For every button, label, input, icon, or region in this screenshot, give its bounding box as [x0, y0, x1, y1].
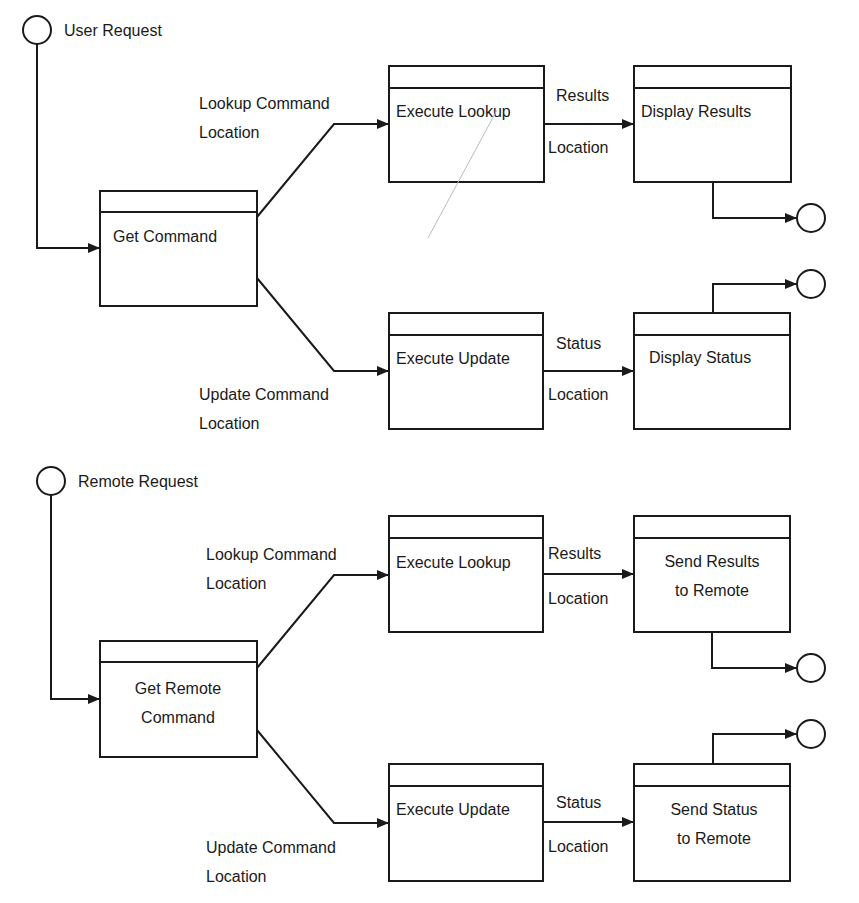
process-display-results: Display Results [634, 66, 791, 182]
process-get-command: Get Command [100, 191, 257, 306]
start-label: User Request [64, 22, 162, 39]
process-execute-update: Execute Update [389, 313, 543, 429]
start-terminal-remote-request [37, 467, 65, 495]
process-label: Send Results [664, 553, 759, 570]
process-execute-update: Execute Update [389, 764, 543, 881]
flow-start-to-get-command [37, 44, 99, 248]
flow-label-line: Lookup Command [206, 546, 337, 563]
process-label: Execute Update [396, 350, 510, 367]
flow-label-below: Location [548, 590, 609, 607]
process-send-results-to-remote: Send Results to Remote [634, 516, 790, 632]
flow-diagram: User Request Get Command Lookup Command … [0, 0, 859, 903]
process-label: Display Status [649, 349, 751, 366]
process-label: Display Results [641, 103, 751, 120]
process-label: Execute Update [396, 801, 510, 818]
flow-label-line: Update Command [206, 839, 336, 856]
start-label: Remote Request [78, 473, 199, 490]
process-label: Send Status [670, 801, 757, 818]
flow-get-command-to-execute-update [257, 278, 388, 371]
process-get-remote-command: Get Remote Command [100, 641, 257, 757]
end-terminal [797, 654, 825, 682]
section-remote-request: Remote Request Get Remote Command Lookup… [37, 467, 825, 885]
flow-label-below: Location [548, 838, 609, 855]
flow-start-to-get-remote-command [51, 495, 99, 699]
end-terminal [797, 270, 825, 298]
flow-label-line: Location [199, 124, 260, 141]
process-execute-lookup: Execute Lookup [389, 516, 543, 632]
start-terminal-user-request [23, 16, 51, 44]
flow-display-status-to-end [713, 284, 796, 313]
flow-display-results-to-end [713, 182, 796, 218]
flow-get-remote-command-to-execute-update [257, 730, 388, 823]
flow-label-line: Location [199, 415, 260, 432]
process-label: Get Remote [135, 680, 221, 697]
flow-label-line: Lookup Command [199, 95, 330, 112]
end-terminal [797, 720, 825, 748]
process-label: Execute Lookup [396, 103, 511, 120]
process-send-status-to-remote: Send Status to Remote [634, 764, 790, 881]
process-label: to Remote [675, 582, 749, 599]
flow-label-line: Location [206, 868, 267, 885]
process-label: to Remote [677, 830, 751, 847]
flow-label-above: Results [556, 87, 609, 104]
flow-label-above: Status [556, 335, 601, 352]
process-execute-lookup: Execute Lookup [389, 66, 544, 182]
process-label: Get Command [113, 228, 217, 245]
process-label: Execute Lookup [396, 554, 511, 571]
flow-get-remote-command-to-execute-lookup [257, 575, 388, 668]
flow-get-command-to-execute-lookup [257, 124, 388, 217]
flow-label-above: Status [556, 794, 601, 811]
flow-label-above: Results [548, 545, 601, 562]
end-terminal [797, 204, 825, 232]
flow-label-line: Update Command [199, 386, 329, 403]
flow-label-below: Location [548, 386, 609, 403]
flow-label-below: Location [548, 139, 609, 156]
process-label: Command [141, 709, 215, 726]
process-display-status: Display Status [634, 313, 790, 429]
flow-send-status-to-end [713, 734, 796, 764]
section-user-request: User Request Get Command Lookup Command … [23, 16, 825, 432]
flow-send-results-to-end [712, 632, 796, 668]
flow-label-line: Location [206, 575, 267, 592]
